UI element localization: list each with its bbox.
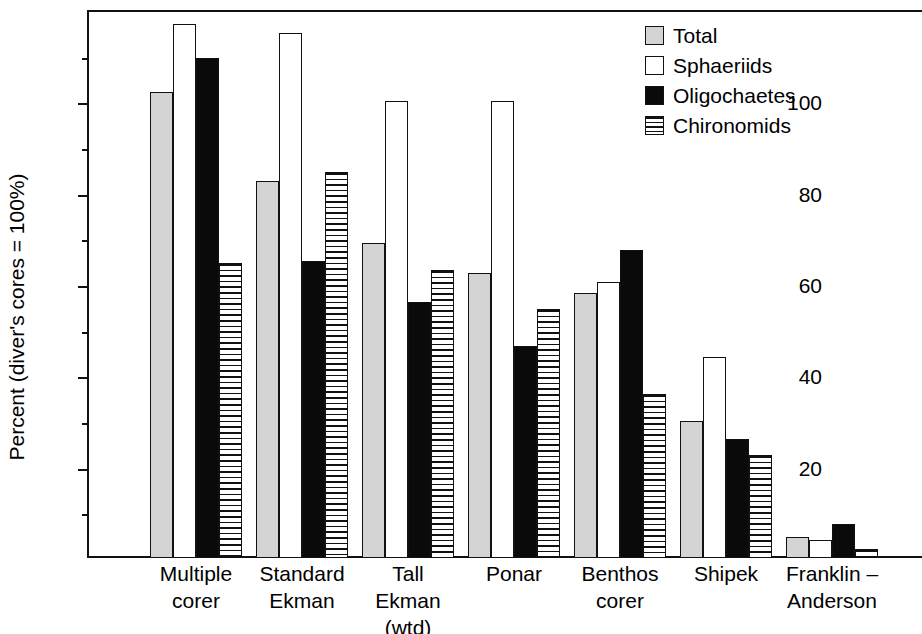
bar-oligo[interactable] — [408, 302, 431, 558]
bar-oligo[interactable] — [302, 261, 325, 558]
bar-total[interactable] — [786, 537, 809, 558]
x-axis-label: Franklin – Anderson — [766, 560, 898, 614]
x-axis-labels: Multiple corerStandard EkmanTall Ekman (… — [87, 560, 922, 634]
legend-label: Total — [673, 24, 717, 48]
legend-item-total[interactable]: Total — [645, 22, 796, 49]
legend-swatch-icon — [645, 86, 664, 105]
bar-chiro[interactable] — [219, 263, 242, 558]
bar-total[interactable] — [574, 293, 597, 558]
bar-group — [468, 10, 560, 558]
bar-sphaeriids[interactable] — [809, 540, 832, 558]
bar-sphaeriids[interactable] — [279, 33, 302, 558]
bar-oligo[interactable] — [196, 58, 219, 558]
bar-oligo[interactable] — [514, 346, 537, 558]
bar-oligo[interactable] — [726, 439, 749, 558]
bar-sphaeriids[interactable] — [491, 101, 514, 558]
legend-item-sphaeriids[interactable]: Sphaeriids — [645, 52, 796, 79]
legend-swatch-icon — [645, 56, 664, 75]
bar-chiro[interactable] — [855, 549, 878, 558]
bar-sphaeriids[interactable] — [173, 24, 196, 558]
bar-chiro[interactable] — [325, 172, 348, 558]
bar-group — [256, 10, 348, 558]
y-axis-title: Percent (diver's cores = 100%) — [0, 0, 34, 634]
legend-label: Sphaeriids — [673, 54, 772, 78]
bar-chiro[interactable] — [537, 309, 560, 558]
chart-legend: TotalSphaeriidsOligochaetesChironomids — [645, 22, 796, 139]
bar-chiro[interactable] — [431, 270, 454, 558]
bar-group — [150, 10, 242, 558]
bar-sphaeriids[interactable] — [703, 357, 726, 558]
legend-label: Oligochaetes — [673, 84, 796, 108]
legend-label: Chironomids — [673, 114, 791, 138]
legend-item-oligo[interactable]: Oligochaetes — [645, 82, 796, 109]
bar-sphaeriids[interactable] — [597, 282, 620, 558]
bar-total[interactable] — [256, 181, 279, 558]
bar-total[interactable] — [362, 243, 385, 558]
bar-groups — [87, 10, 922, 558]
legend-item-chiro[interactable]: Chironomids — [645, 112, 796, 139]
bar-oligo[interactable] — [620, 250, 643, 558]
legend-swatch-icon — [645, 26, 664, 45]
bar-group — [786, 10, 878, 558]
bar-group — [362, 10, 454, 558]
legend-swatch-icon — [645, 116, 664, 135]
bar-total[interactable] — [468, 273, 491, 558]
bar-chart-figure: Percent (diver's cores = 100%) 204060801… — [0, 0, 922, 634]
bar-sphaeriids[interactable] — [385, 101, 408, 558]
bar-oligo[interactable] — [832, 524, 855, 558]
bar-chiro[interactable] — [643, 394, 666, 558]
bar-total[interactable] — [680, 421, 703, 558]
bar-chiro[interactable] — [749, 455, 772, 558]
bar-total[interactable] — [150, 92, 173, 558]
